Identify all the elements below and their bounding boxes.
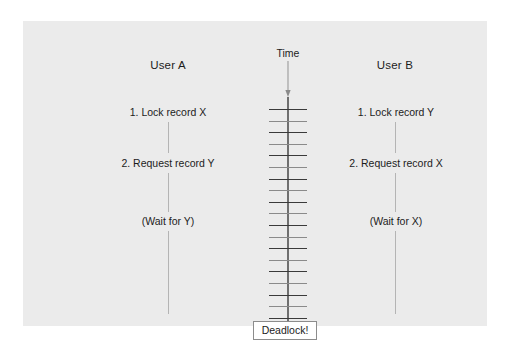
time-tick <box>269 144 307 145</box>
user-a-lifeline-segment <box>168 231 169 314</box>
time-tick <box>269 167 307 168</box>
user-a-step-2: 2. Request record Y <box>83 157 253 169</box>
time-tick <box>269 248 307 249</box>
user-a-lifeline-segment <box>168 122 169 153</box>
user-b-step-2: 2. Request record X <box>311 157 481 169</box>
time-tick <box>269 225 307 226</box>
time-tick <box>269 132 307 133</box>
user-b-lifeline-segment <box>395 173 396 212</box>
time-tick <box>269 306 307 307</box>
time-tick <box>269 260 307 261</box>
time-tick <box>269 202 307 203</box>
user-b-wait-state: (Wait for X) <box>311 215 481 227</box>
deadlock-status-badge: Deadlock! <box>253 321 317 340</box>
time-tick <box>269 179 307 180</box>
column-header-user-a: User A <box>98 59 238 71</box>
column-header-user-b: User B <box>325 59 465 71</box>
time-tick <box>269 283 307 284</box>
user-b-lifeline-segment <box>395 122 396 153</box>
user-a-wait-state: (Wait for Y) <box>83 215 253 227</box>
time-tick <box>269 237 307 238</box>
deadlock-label: Deadlock! <box>262 325 309 336</box>
time-tick <box>269 121 307 122</box>
user-a-lifeline-segment <box>168 173 169 212</box>
time-axis-line <box>287 97 289 322</box>
time-axis-label: Time <box>238 47 338 59</box>
user-a-step-1: 1. Lock record X <box>83 106 253 118</box>
time-tick <box>269 295 307 296</box>
user-b-step-1: 1. Lock record Y <box>311 106 481 118</box>
time-tick <box>269 318 307 319</box>
deadlock-diagram: Time User A 1. Lock record X 2. Request … <box>0 0 510 347</box>
time-tick <box>269 190 307 191</box>
time-tick <box>269 271 307 272</box>
time-tick <box>269 213 307 214</box>
diagram-panel: Time User A 1. Lock record X 2. Request … <box>23 21 487 326</box>
user-b-lifeline-segment <box>395 231 396 314</box>
time-tick <box>269 155 307 156</box>
time-tick <box>269 109 307 110</box>
time-direction-arrow-icon <box>267 61 309 99</box>
